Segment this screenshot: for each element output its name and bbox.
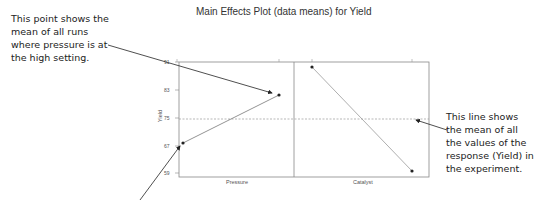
catalyst-low-point bbox=[310, 65, 313, 68]
y-axis: 91 83 75 67 59 Yield bbox=[157, 59, 179, 176]
catalyst-high-point bbox=[410, 169, 413, 172]
y-tick-label: 67 bbox=[164, 143, 170, 149]
pressure-low-point bbox=[181, 141, 184, 144]
y-tick-label: 75 bbox=[164, 115, 170, 121]
y-tick-label: 83 bbox=[164, 87, 170, 93]
x-label-catalyst: Catalyst bbox=[353, 179, 373, 185]
y-tick-label: 59 bbox=[164, 170, 170, 176]
arrow-to-low-pressure bbox=[140, 146, 180, 200]
arrow-to-grand-mean bbox=[416, 120, 447, 130]
plot-frame bbox=[179, 62, 429, 177]
y-axis-label: Yield bbox=[157, 110, 163, 122]
x-label-pressure: Pressure bbox=[226, 179, 248, 185]
arrow-to-high-pressure bbox=[108, 45, 272, 93]
pressure-high-point bbox=[277, 93, 280, 96]
